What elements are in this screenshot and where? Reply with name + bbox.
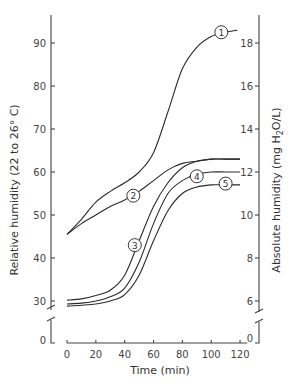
x-tick-label: 40: [118, 349, 131, 360]
y-left-axis-title: Relative humidity (22 to 26° C): [8, 104, 21, 275]
y-right-tick-label: 10: [240, 210, 253, 221]
y-right-tick-label: 18: [240, 38, 253, 49]
x-axis-title: Time (min): [129, 364, 190, 377]
y-left-tick-label: 90: [33, 38, 46, 49]
curve-label-1: 1: [215, 26, 228, 39]
curve-1: [67, 30, 237, 234]
x-tick-label: 20: [89, 349, 102, 360]
x-tick-label: 0: [64, 349, 70, 360]
curve-label-5: 5: [219, 177, 232, 190]
svg-text:1: 1: [218, 28, 224, 38]
y-left-axis-break: [47, 305, 55, 321]
svg-text:4: 4: [194, 172, 200, 182]
y-left-tick-label: 80: [33, 81, 46, 92]
y-left-tick-label: 70: [33, 124, 46, 135]
svg-text:3: 3: [132, 241, 138, 251]
y-right-axis-break: [255, 309, 263, 323]
y-left-axis-line: [51, 15, 55, 343]
y-right-axis-title: Absolute humidity (mg H2O/L): [270, 107, 285, 272]
curve-markers: 12345: [127, 26, 232, 252]
y-left-tick-label: 0: [40, 335, 46, 346]
y-right-tick-label: 16: [240, 81, 253, 92]
x-tick-label: 60: [147, 349, 160, 360]
y-right-tick-label: 0: [247, 333, 253, 344]
curve-label-2: 2: [127, 189, 140, 202]
curve-label-3: 3: [128, 239, 141, 252]
y-right-tick-label: 6: [247, 296, 253, 307]
humidity-chart: 0204060801001200304050607080900681012141…: [0, 0, 291, 392]
curve-4: [67, 172, 240, 304]
curve-5: [67, 185, 240, 306]
curves: [67, 30, 240, 306]
y-right-tick-label: 12: [240, 167, 253, 178]
y-left-tick-label: 40: [33, 253, 46, 264]
y-right-axis-line: [255, 15, 259, 343]
x-tick-label: 100: [202, 349, 221, 360]
svg-text:5: 5: [223, 179, 229, 189]
svg-text:2: 2: [130, 191, 136, 201]
x-tick-label: 120: [230, 349, 249, 360]
y-right-tick-label: 8: [247, 253, 253, 264]
y-left-tick-label: 50: [33, 210, 46, 221]
y-left-tick-label: 30: [33, 296, 46, 307]
y-right-tick-label: 14: [240, 124, 253, 135]
curve-label-4: 4: [190, 170, 203, 183]
x-tick-label: 80: [176, 349, 189, 360]
y-left-tick-label: 60: [33, 167, 46, 178]
